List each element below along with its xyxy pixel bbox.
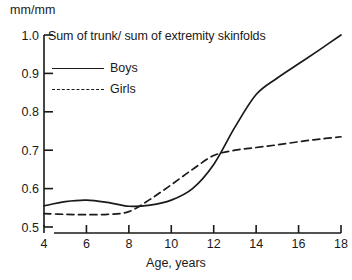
y-tick-label: 1.0 bbox=[22, 29, 39, 43]
x-axis: 4681012141618 bbox=[41, 225, 348, 251]
x-tick-label: 12 bbox=[207, 237, 221, 251]
y-tick-label: 0.6 bbox=[22, 182, 39, 196]
y-tick-label: 0.5 bbox=[22, 221, 39, 235]
y-tick-label: 0.8 bbox=[22, 105, 39, 119]
x-tick-label: 16 bbox=[292, 237, 306, 251]
y-tick-label: 0.7 bbox=[22, 144, 39, 158]
data-series-group bbox=[44, 35, 341, 215]
x-axis-title: Age, years bbox=[0, 256, 352, 270]
x-tick-label: 6 bbox=[83, 237, 90, 251]
x-tick-label: 14 bbox=[249, 237, 263, 251]
x-tick-label: 8 bbox=[125, 237, 132, 251]
plot-area: 1.00.90.80.70.60.5 4681012141618 bbox=[0, 0, 352, 280]
series-line-boys bbox=[44, 35, 341, 206]
y-axis: 1.00.90.80.70.60.5 bbox=[22, 29, 53, 235]
chart-figure: mm/mm Sum of trunk/ sum of extremity ski… bbox=[0, 0, 352, 280]
y-tick-label: 0.9 bbox=[22, 67, 39, 81]
series-line-girls bbox=[44, 137, 341, 215]
x-tick-label: 10 bbox=[164, 237, 178, 251]
x-tick-label: 4 bbox=[41, 237, 48, 251]
x-tick-label: 18 bbox=[334, 237, 348, 251]
